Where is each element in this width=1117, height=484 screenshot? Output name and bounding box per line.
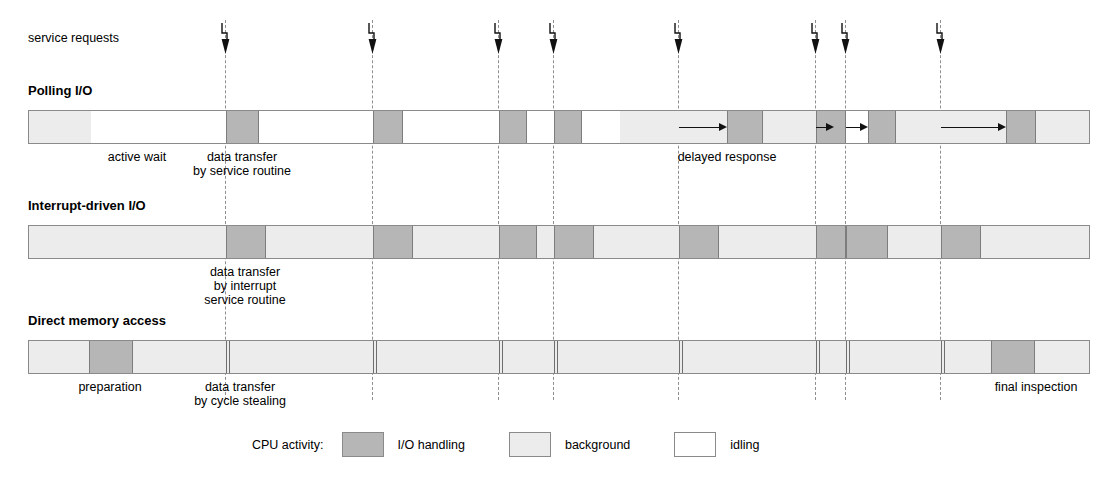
legend-label-idling: idling [730, 438, 759, 452]
segment-background [763, 111, 816, 143]
annotation-polling-0: active wait [108, 150, 166, 165]
cycle-steal-tick [376, 341, 377, 373]
segment-background [413, 226, 499, 258]
row-title-interrupt: Interrupt-driven I/O [28, 199, 146, 214]
segment-io [373, 111, 403, 143]
segment-background [719, 226, 816, 258]
annotation-interrupt-0: data transfer [210, 265, 280, 280]
legend-label-background: background [565, 438, 630, 452]
segment-io [89, 341, 133, 373]
segment-background [29, 226, 226, 258]
segment-idling [259, 111, 373, 143]
segment-io [373, 226, 413, 258]
segment-io [226, 111, 259, 143]
row-title-polling: Polling I/O [28, 84, 92, 99]
segment-io [499, 226, 537, 258]
segment-idling [582, 111, 620, 143]
cycle-steal-tick [941, 341, 942, 373]
annotation-dma-1: data transfer [205, 380, 275, 395]
segment-io [554, 111, 582, 143]
cycle-steal-tick [499, 341, 500, 373]
segment-io [991, 341, 1035, 373]
annotation-dma-0: preparation [78, 380, 141, 395]
segment-idling [527, 111, 554, 143]
annotation-dma-3: final inspection [995, 380, 1078, 395]
segment-background [981, 226, 1090, 258]
row-title-dma: Direct memory access [28, 314, 166, 329]
segment-io [868, 111, 896, 143]
cycle-steal-tick [679, 341, 680, 373]
cycle-steal-tick [229, 341, 230, 373]
segment-background [29, 111, 91, 143]
cycle-steal-tick [819, 341, 820, 373]
timeline-bar-interrupt [28, 225, 1090, 259]
legend-swatch-idling [674, 432, 716, 457]
legend-title: CPU activity: [252, 438, 324, 452]
segment-io [727, 111, 763, 143]
segment-io [816, 226, 846, 258]
segment-background [1036, 111, 1090, 143]
segment-background [537, 226, 554, 258]
segment-io [499, 111, 527, 143]
cycle-steal-tick [816, 341, 817, 373]
legend: CPU activity: I/O handling background id… [252, 432, 759, 457]
cycle-steal-tick [502, 341, 503, 373]
segment-background [888, 226, 941, 258]
timeline-rows: Polling I/Oactive waitdata transferby se… [0, 0, 1117, 484]
annotation-dma-2: by cycle stealing [194, 394, 286, 409]
segment-background [29, 341, 1090, 373]
delayed-response-arrow [816, 123, 834, 132]
delayed-response-arrow [679, 123, 727, 132]
annotation-polling-2: by service routine [193, 164, 291, 179]
legend-swatch-background [509, 432, 551, 457]
timeline-bar-dma [28, 340, 1090, 374]
timeline-bar-polling [28, 110, 1090, 144]
cycle-steal-tick [554, 341, 555, 373]
cycle-steal-tick [226, 341, 227, 373]
legend-swatch-io-handling [342, 432, 384, 457]
segment-io [679, 226, 719, 258]
diagram-canvas: service requests Polling I/Oactive waitd… [0, 0, 1117, 484]
segment-idling [403, 111, 499, 143]
annotation-interrupt-1: by interrupt [214, 279, 277, 294]
segment-io [554, 226, 594, 258]
cycle-steal-tick [944, 341, 945, 373]
cycle-steal-tick [682, 341, 683, 373]
segment-background [266, 226, 373, 258]
annotation-interrupt-2: service routine [204, 293, 285, 308]
cycle-steal-tick [557, 341, 558, 373]
cycle-steal-tick [849, 341, 850, 373]
annotation-polling-1: data transfer [207, 150, 277, 165]
segment-io [226, 226, 266, 258]
delayed-response-arrow [941, 123, 1006, 132]
segment-idling [91, 111, 226, 143]
segment-background [594, 226, 679, 258]
annotation-polling-3: delayed response [678, 150, 777, 165]
segment-io [1006, 111, 1036, 143]
delayed-response-arrow [846, 123, 868, 132]
segment-io [846, 226, 888, 258]
legend-label-io-handling: I/O handling [398, 438, 465, 452]
cycle-steal-tick [846, 341, 847, 373]
cycle-steal-tick [373, 341, 374, 373]
segment-io [941, 226, 981, 258]
